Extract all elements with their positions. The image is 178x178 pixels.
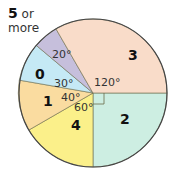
label-5-number: 5 [8,5,18,21]
label-2: 2 [120,111,130,127]
label-1: 1 [43,93,53,109]
label-4: 4 [71,117,81,133]
label-5-or-text-2: more [8,21,39,35]
label-5-or-text-1: or [22,7,34,21]
angle-label-3: 120° [94,76,121,89]
angle-label-1: 40° [61,91,81,104]
angle-label-0: 30° [54,77,74,90]
angle-label-5-or-more: 20° [52,48,72,61]
label-5-or-more: 5 or more [8,6,39,35]
label-0: 0 [35,66,45,82]
label-3: 3 [128,47,138,63]
